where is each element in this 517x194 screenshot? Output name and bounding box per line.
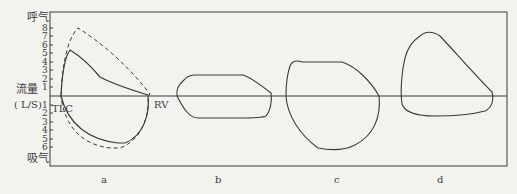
flow-volume-diagram: 呼气 8 7 6 5 4 3 2 1 流量 ( L/S) 1 2 3 4 5 6… bbox=[0, 0, 517, 194]
svg-text:6: 6 bbox=[42, 142, 48, 152]
panel-label-c: c bbox=[334, 174, 340, 185]
y-tick-labels-up: 8 7 6 5 4 3 2 1 bbox=[42, 23, 48, 92]
y-tick-labels-down: 1 2 3 4 5 6 bbox=[42, 100, 48, 152]
panel-c-loop bbox=[286, 61, 379, 150]
flow-label: 流量 bbox=[16, 82, 38, 96]
panel-a-normal-loop bbox=[61, 28, 150, 148]
tlc-annotation: TLC bbox=[52, 103, 73, 114]
inhale-label: 吸气 bbox=[27, 151, 49, 165]
rv-annotation: RV bbox=[154, 99, 169, 110]
flow-unit-label: ( L/S) bbox=[14, 99, 42, 110]
panel-d-loop bbox=[401, 32, 493, 116]
panel-label-b: b bbox=[215, 174, 221, 185]
svg-text:1: 1 bbox=[42, 82, 48, 92]
panel-label-a: a bbox=[101, 174, 107, 185]
exhale-label: 呼气 bbox=[27, 10, 49, 24]
panel-label-d: d bbox=[437, 174, 444, 185]
